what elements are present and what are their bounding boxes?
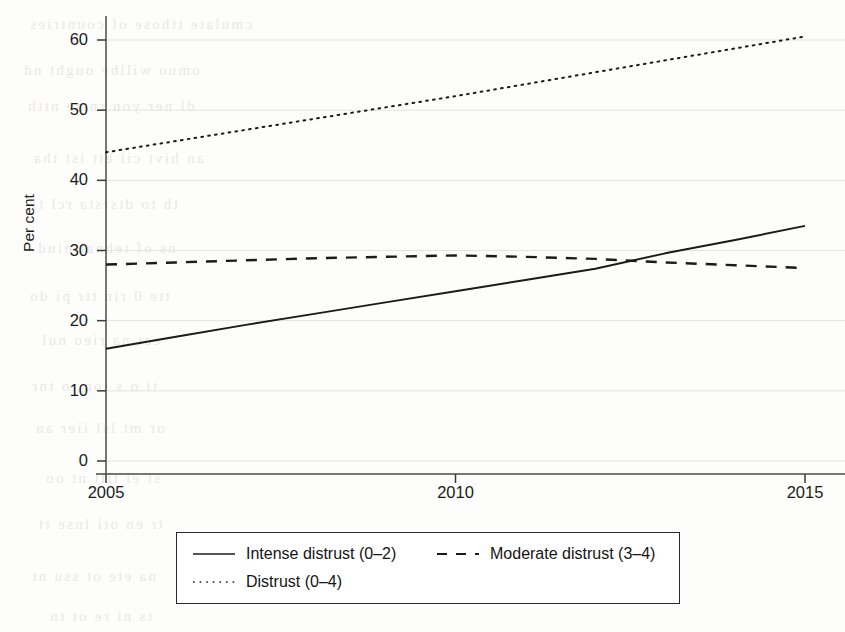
y-axis-tick-label: 10 [44, 381, 88, 400]
legend-label-distrust: Distrust (0–4) [246, 573, 342, 591]
legend-label-intense-distrust: Intense distrust (0–2) [246, 545, 396, 563]
x-axis-tick-label: 2005 [71, 483, 141, 502]
legend-key-dashed-icon [435, 546, 481, 562]
x-axis-tick-label: 2010 [421, 483, 491, 502]
y-axis-tick-label: 30 [44, 241, 88, 260]
y-axis-tick-label: 0 [44, 451, 88, 470]
legend-entry-moderate-distrust: Moderate distrust (3–4) [435, 541, 655, 567]
chart-figure: cmulate tthose of countriesomuo willbe o… [0, 0, 845, 632]
legend-entry-distrust: Distrust (0–4) [191, 569, 342, 595]
y-axis-tick-label: 50 [44, 100, 88, 119]
x-axis-tick-label: 2015 [770, 483, 840, 502]
legend-key-solid-icon [191, 546, 237, 562]
series-line-dotted [106, 36, 805, 152]
y-axis-title: Per cent [20, 178, 38, 268]
series-line-solid [106, 226, 805, 349]
series-line-dashed [106, 255, 805, 268]
y-axis-tick-label: 60 [44, 30, 88, 49]
y-axis-tick-label: 20 [44, 311, 88, 330]
chart-legend: Intense distrust (0–2) Moderate distrust… [176, 532, 680, 604]
legend-entry-intense-distrust: Intense distrust (0–2) [191, 541, 396, 567]
legend-key-dotted-icon [191, 574, 237, 590]
y-axis-tick-label: 40 [44, 170, 88, 189]
legend-label-moderate-distrust: Moderate distrust (3–4) [490, 545, 655, 563]
